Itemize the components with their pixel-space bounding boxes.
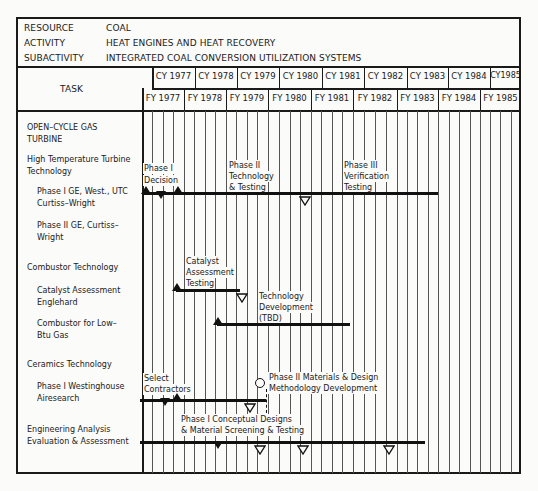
milestone-filled-up-icon xyxy=(172,283,182,291)
fy-1983: FY 1983 xyxy=(397,93,438,103)
gridline xyxy=(449,111,450,473)
cy-1979: CY 1979 xyxy=(237,71,279,81)
gridline xyxy=(407,111,408,473)
resource-value: COAL xyxy=(106,23,131,33)
label-phase2-tt-2: Technology xyxy=(228,171,275,182)
fy-divider xyxy=(438,88,439,110)
header-divider xyxy=(16,66,521,68)
fy-1980: FY 1980 xyxy=(268,93,311,103)
gridline xyxy=(417,111,418,473)
label-phase1-cd-2: & Material Screening & Testing xyxy=(180,425,305,436)
fy-divider xyxy=(268,88,269,110)
cy-1982: CY 1982 xyxy=(364,71,407,81)
label-phase3-vt: Phase III xyxy=(343,160,379,171)
task-combustor-tech: Combustor Technology xyxy=(27,262,118,274)
label-catalyst-3: Testing xyxy=(185,278,215,289)
gridline xyxy=(397,111,398,473)
gridline xyxy=(490,111,491,473)
cy-row-bottom xyxy=(152,88,521,90)
task-combustor-lowbtu: Combustor for Low– xyxy=(37,318,117,330)
fy-1981: FY 1981 xyxy=(311,93,353,103)
fy-1977: FY 1977 xyxy=(142,93,184,103)
fy-divider xyxy=(311,88,312,110)
label-catalyst-2: Assessment xyxy=(185,267,235,278)
gridline xyxy=(386,111,387,473)
gridline xyxy=(428,111,429,473)
task-phase1-westinghouse: Phase I Westinghouse xyxy=(37,381,125,393)
gridline xyxy=(321,111,322,473)
cy-1983: CY 1983 xyxy=(407,71,448,81)
task-phase2-ge: Phase II GE, Curtiss– xyxy=(37,220,119,232)
cy-1980: CY 1980 xyxy=(279,71,322,81)
label-phase2-tt: Phase II xyxy=(228,160,261,171)
fy-divider xyxy=(226,88,227,110)
label-tech-dev: Technology xyxy=(258,291,305,302)
task-phase1-ge: Phase I GE, West., UTC xyxy=(37,186,128,198)
task-column-edge xyxy=(142,88,144,473)
activity-value: HEAT ENGINES AND HEAT RECOVERY xyxy=(106,38,275,48)
label-phase1-decision: Phase I xyxy=(143,163,174,174)
milestone-filled-up-icon xyxy=(173,186,183,194)
fy-divider xyxy=(480,88,481,110)
bar-catalyst xyxy=(176,289,240,292)
milestone-filled-down-icon xyxy=(156,191,166,199)
task-engineering-analysis-2: Evaluation & Assessment xyxy=(27,436,129,448)
milestone-open-circle-icon xyxy=(255,378,265,388)
task-open-cycle: OPEN–CYCLE GAS xyxy=(27,122,97,134)
label-catalyst: Catalyst xyxy=(185,256,220,267)
task-phase2-ge-2: Wright xyxy=(37,232,63,244)
cy-1977: CY 1977 xyxy=(152,71,195,81)
gridline xyxy=(500,111,501,473)
label-phase1-decision-2: Decision xyxy=(143,175,179,186)
fy-1982: FY 1982 xyxy=(353,93,397,103)
milestone-filled-up-icon xyxy=(141,186,151,194)
fy-1978: FY 1978 xyxy=(184,93,226,103)
resource-key: RESOURCE xyxy=(24,23,74,33)
label-phase1-cd: Phase I Conceptual Designs xyxy=(180,414,293,425)
cy-1978: CY 1978 xyxy=(195,71,237,81)
milestone-filled-down-icon xyxy=(160,398,170,406)
task-combustor-lowbtu-2: Btu Gas xyxy=(37,330,69,342)
subactivity-value: INTEGRATED COAL CONVERSION UTILIZATION S… xyxy=(106,53,361,63)
cy-1981: CY 1981 xyxy=(322,71,364,81)
task-catalyst: Catalyst Assessment xyxy=(37,285,120,297)
label-select: Select xyxy=(143,373,170,384)
dashed-connector xyxy=(266,389,267,413)
task-hi-temp-turbine: High Temperature Turbine xyxy=(27,154,130,166)
fy-1984: FY 1984 xyxy=(438,93,480,103)
gridline xyxy=(332,111,333,473)
bar-engineering-analysis xyxy=(140,441,425,444)
fy-divider xyxy=(184,88,185,110)
task-ceramics: Ceramics Technology xyxy=(27,359,112,371)
fy-1979: FY 1979 xyxy=(226,93,268,103)
bar-westinghouse xyxy=(140,399,266,402)
label-phase2-md: Phase II Materials & Design xyxy=(268,372,379,383)
milestone-filled-down-icon xyxy=(213,441,223,449)
label-phase3-vt-2: Verification xyxy=(343,171,390,182)
task-hi-temp-turbine-2: Technology xyxy=(27,166,72,178)
gridline xyxy=(311,111,312,473)
bar-phase1-ge xyxy=(142,192,438,195)
fy-divider xyxy=(353,88,354,110)
task-catalyst-2: Englehard xyxy=(37,297,78,309)
bar-combustor-lowbtu xyxy=(217,323,350,326)
task-open-cycle-2: TURBINE xyxy=(27,134,62,146)
gridline xyxy=(459,111,460,473)
gridline xyxy=(480,111,481,473)
fy-divider xyxy=(397,88,398,110)
task-phase1-ge-2: Curtiss–Wright xyxy=(37,198,95,210)
cy-1985: CY1985 xyxy=(490,71,521,80)
task-column-header: TASK xyxy=(60,84,83,94)
milestone-filled-up-icon xyxy=(172,393,182,401)
task-engineering-analysis: Engineering Analysis xyxy=(27,424,111,436)
gridline xyxy=(470,111,471,473)
gridline xyxy=(438,111,439,473)
label-select-2: Contractors xyxy=(143,384,192,395)
activity-key: ACTIVITY xyxy=(24,38,65,48)
gridline xyxy=(511,111,512,473)
milestone-filled-up-icon xyxy=(213,317,223,325)
cy-1984: CY 1984 xyxy=(448,71,490,81)
label-tech-dev-2: Development xyxy=(258,302,314,313)
fy-1985: FY 1985 xyxy=(480,93,521,103)
task-phase1-westinghouse-2: Airesearch xyxy=(37,393,79,405)
